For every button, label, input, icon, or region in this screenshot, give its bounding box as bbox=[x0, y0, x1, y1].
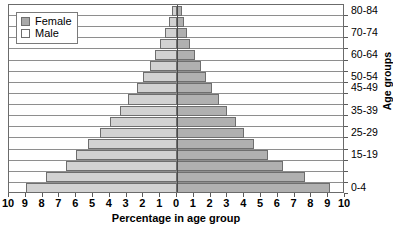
bar-male bbox=[177, 150, 268, 160]
bar-female bbox=[100, 128, 177, 138]
bar-male bbox=[177, 6, 182, 16]
bar-male bbox=[177, 94, 219, 104]
legend-item-female[interactable]: Female bbox=[21, 16, 72, 27]
bar-female bbox=[150, 61, 177, 71]
bar-male bbox=[177, 172, 305, 182]
bar-male bbox=[177, 61, 201, 71]
y-tick-label: 25-29 bbox=[351, 126, 378, 138]
bar-female bbox=[66, 161, 177, 171]
bar-female bbox=[165, 28, 177, 38]
bar-male bbox=[177, 139, 254, 149]
bar-female bbox=[160, 39, 177, 49]
y-tick-mark bbox=[344, 48, 348, 49]
legend-label-female: Female bbox=[35, 16, 72, 27]
female-swatch-icon bbox=[21, 17, 30, 26]
y-tick-mark bbox=[344, 160, 348, 161]
y-tick-mark bbox=[344, 26, 348, 27]
population-pyramid-chart: Female Male 10987654321012345678910 Perc… bbox=[0, 0, 398, 232]
y-tick-mark bbox=[344, 93, 348, 94]
y-tick-mark bbox=[344, 137, 348, 138]
bar-male bbox=[177, 28, 187, 38]
bar-female bbox=[46, 172, 177, 182]
legend-item-male[interactable]: Male bbox=[21, 28, 72, 39]
y-tick-mark bbox=[344, 149, 348, 150]
y-tick-mark bbox=[344, 71, 348, 72]
y-tick-label: 45-49 bbox=[351, 81, 378, 93]
y-tick-mark bbox=[344, 82, 348, 83]
bar-female bbox=[110, 117, 177, 127]
bar-female bbox=[76, 150, 177, 160]
y-tick-label: 60-64 bbox=[351, 48, 378, 60]
x-axis-title: Percentage in age group bbox=[0, 212, 352, 224]
x-tick-label: 10 bbox=[332, 197, 356, 209]
y-tick-mark bbox=[344, 171, 348, 172]
y-axis-title: Age groups bbox=[381, 52, 393, 110]
bar-female bbox=[128, 94, 177, 104]
y-tick-label: 80-84 bbox=[351, 4, 378, 16]
bar-female bbox=[155, 50, 177, 60]
bar-male bbox=[177, 117, 236, 127]
bar-male bbox=[177, 83, 212, 93]
y-tick-label: 0-4 bbox=[351, 181, 366, 193]
bar-male bbox=[177, 128, 244, 138]
bar-female bbox=[26, 183, 177, 193]
bar-male bbox=[177, 39, 190, 49]
bar-male bbox=[177, 72, 206, 82]
y-tick-mark bbox=[344, 37, 348, 38]
center-axis-line bbox=[177, 5, 178, 192]
male-swatch-icon bbox=[21, 29, 30, 38]
legend-label-male: Male bbox=[35, 28, 59, 39]
y-tick-mark bbox=[344, 126, 348, 127]
y-tick-mark bbox=[344, 60, 348, 61]
y-tick-label: 70-74 bbox=[351, 26, 378, 38]
y-tick-mark bbox=[344, 15, 348, 16]
y-tick-mark bbox=[344, 193, 348, 194]
chart-legend: Female Male bbox=[16, 12, 78, 44]
bar-female bbox=[120, 106, 177, 116]
bar-male bbox=[177, 17, 184, 27]
y-tick-label: 15-19 bbox=[351, 148, 378, 160]
bar-male bbox=[177, 50, 195, 60]
bar-female bbox=[143, 72, 177, 82]
y-tick-mark bbox=[344, 115, 348, 116]
y-tick-mark bbox=[344, 182, 348, 183]
bar-male bbox=[177, 183, 330, 193]
y-tick-label: 35-39 bbox=[351, 104, 378, 116]
bar-female bbox=[137, 83, 177, 93]
bar-male bbox=[177, 161, 283, 171]
bar-male bbox=[177, 106, 227, 116]
bar-female bbox=[88, 139, 177, 149]
y-tick-mark bbox=[344, 104, 348, 105]
